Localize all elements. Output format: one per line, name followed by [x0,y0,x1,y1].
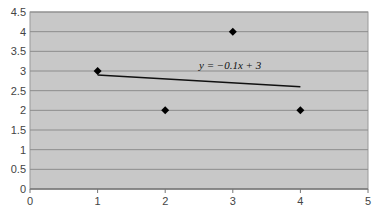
scatter-chart: 00.511.522.533.544.5012345y = −0.1x + 3 [0,0,372,216]
y-tick-label: 2 [20,104,26,116]
x-tick-label: 4 [297,195,303,207]
plot-area [30,12,368,189]
y-tick-label: 1.5 [11,124,26,136]
x-tick-label: 3 [230,195,236,207]
y-tick-label: 2.5 [11,85,26,97]
y-tick-label: 4 [20,26,26,38]
y-tick-label: 4.5 [11,6,26,18]
y-tick-label: 3.5 [11,45,26,57]
trendline-equation: y = −0.1x + 3 [198,59,262,71]
y-tick-label: 1 [20,144,26,156]
y-tick-label: 3 [20,65,26,77]
x-tick-label: 5 [365,195,371,207]
x-tick-label: 0 [27,195,33,207]
y-tick-label: 0 [20,183,26,195]
x-tick-label: 2 [162,195,168,207]
x-tick-label: 1 [95,195,101,207]
y-tick-label: 0.5 [11,163,26,175]
